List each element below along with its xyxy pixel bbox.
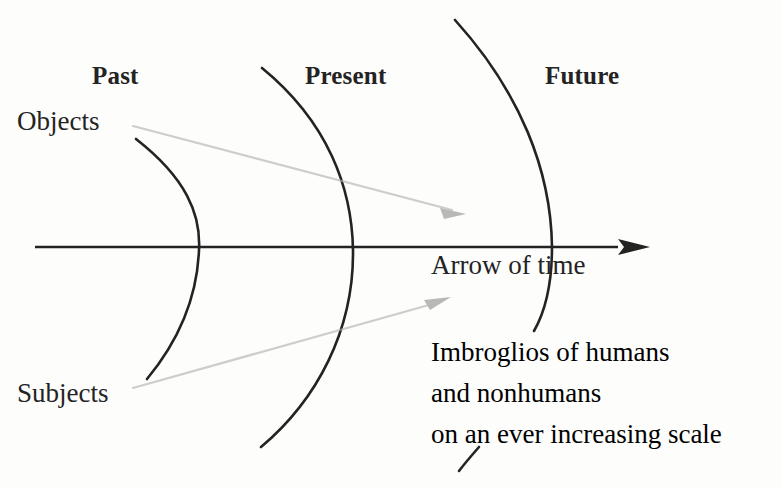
subjects-faint-arrow-shaft <box>133 303 436 388</box>
future-wavefront-arc <box>455 20 552 331</box>
axis-label-arrow-of-time: Arrow of time <box>431 252 585 279</box>
era-label-past: Past <box>92 63 139 88</box>
past-wavefront-arc <box>136 139 199 379</box>
time-axis-arrowhead-icon <box>618 239 650 255</box>
era-label-future: Future <box>545 63 619 88</box>
caption-line-1: Imbroglios of humans <box>431 337 722 368</box>
objects-faint-arrow <box>133 126 466 219</box>
era-label-present: Present <box>305 63 386 88</box>
caption-line-3: on an ever increasing scale <box>431 419 722 450</box>
caption-block: Imbroglios of humans and nonhumans on an… <box>431 337 722 460</box>
diagram-canvas: Past Present Future Objects Subjects Arr… <box>0 0 782 487</box>
subjects-faint-arrow <box>133 297 451 388</box>
side-label-subjects: Subjects <box>17 380 109 407</box>
side-label-objects: Objects <box>17 108 99 135</box>
subjects-faint-arrowhead-icon <box>424 297 451 310</box>
objects-faint-arrow-shaft <box>133 126 452 210</box>
present-wavefront-arc <box>261 68 353 447</box>
caption-line-2: and nonhumans <box>431 378 722 409</box>
